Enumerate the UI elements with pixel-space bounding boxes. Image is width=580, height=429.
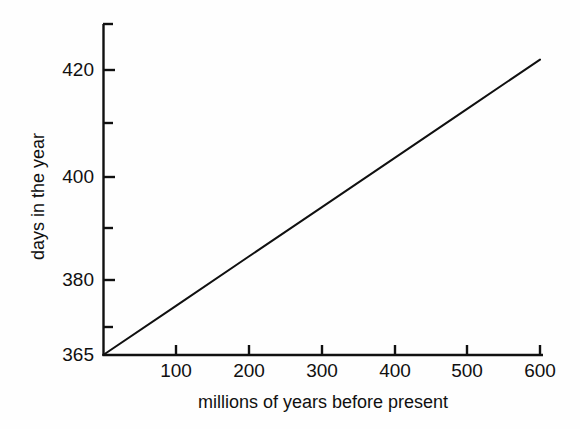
x-axis-ticks (176, 345, 540, 355)
chart-figure: 420 400 380 365 100 200 300 400 500 600 … (0, 0, 580, 429)
x-tick-label-300: 300 (292, 360, 352, 382)
data-series-line (103, 60, 540, 355)
y-tick-label-365: 365 (34, 344, 94, 366)
x-tick-label-200: 200 (219, 360, 279, 382)
y-tick-label-420: 420 (34, 59, 94, 81)
y-axis-title: days in the year (28, 97, 49, 297)
x-tick-label-100: 100 (146, 360, 206, 382)
x-axis-title: millions of years before present (103, 392, 543, 413)
x-tick-label-600: 600 (510, 360, 570, 382)
y-axis-major-ticks (103, 70, 115, 280)
x-tick-label-500: 500 (437, 360, 497, 382)
x-tick-label-400: 400 (365, 360, 425, 382)
